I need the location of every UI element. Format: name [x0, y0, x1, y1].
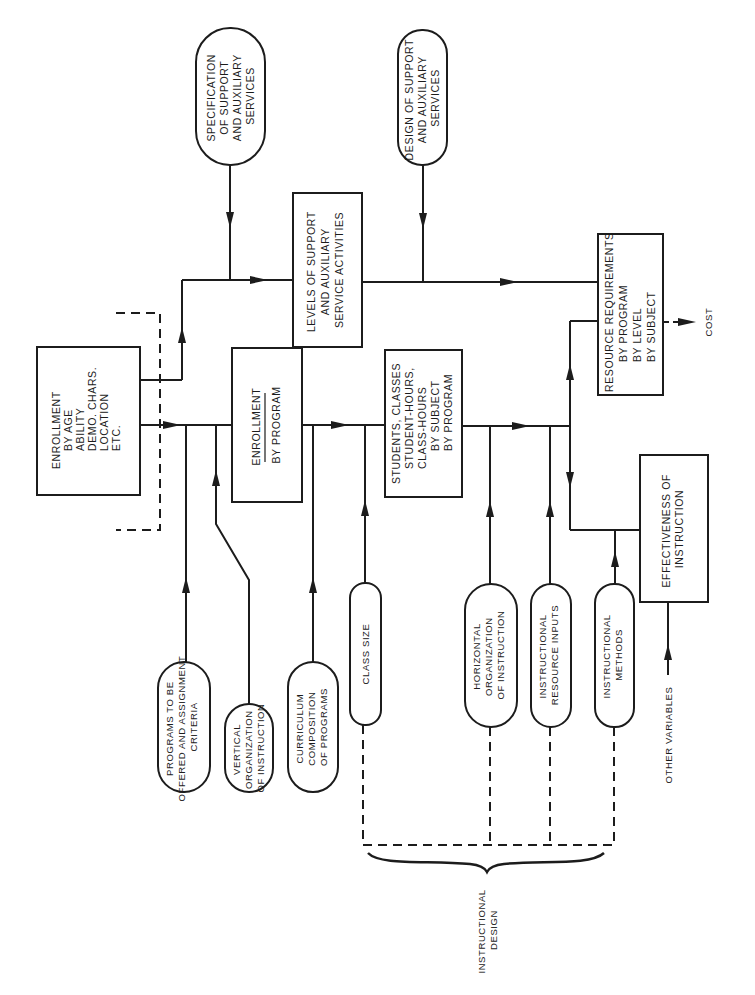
class-size-oval: CLASS SIZE — [350, 583, 381, 725]
instructional-methods-oval: INSTRUCTIONAL METHODS — [595, 584, 634, 727]
instructional-resource-oval: INSTRUCTIONAL RESOURCE INPUTS — [531, 584, 571, 727]
students-classes-box: STUDENTS, CLASSES STUDENT-HOURS, CLASS-H… — [385, 350, 462, 497]
svg-text:CLASS SIZE: CLASS SIZE — [360, 624, 371, 685]
spec-support-oval: SPECIFICATION OF SUPPORT AND AUXILIARY S… — [196, 28, 265, 165]
instructional-design-brace — [368, 853, 604, 872]
svg-text:INSTRUCTIONAL RESOURCE I: INSTRUCTIONAL RESOURCE INPUTS — [537, 605, 560, 705]
other-variables-label: OTHER VARIABLES — [663, 687, 674, 784]
flow-diagram: SPECIFICATION OF SUPPORT AND AUXILIARY S… — [0, 0, 755, 995]
programs-offered-oval: PROGRAMS TO BE OFFERED AND ASSIGNMENT CR… — [158, 653, 210, 802]
svg-text:CURRICULUM COMPOSITION: CURRICULUM COMPOSITION OF PROGRAMS — [294, 688, 329, 766]
svg-text:HORIZONTAL ORGANIZATION: HORIZONTAL ORGANIZATION OF INSTRUCTION — [471, 610, 506, 699]
enrollment-by-age-box: ENROLLMENT BY AGE ABILITY DEMO. CHARS. L… — [37, 347, 140, 495]
enrollment-by-program-box: ENROLLMENT BY PROGRAM — [232, 348, 302, 502]
svg-text:LEVELS OF SUPPORT AND AU: LEVELS OF SUPPORT AND AUXILIARY SERVICE … — [305, 208, 345, 332]
instructional-design-label: INSTRUCTIONAL DESIGN — [476, 886, 499, 973]
cost-label: COST — [703, 308, 714, 337]
effectiveness-box: EFFECTIVENESS OF INSTRUCTION — [640, 455, 708, 602]
horizontal-organization-oval: HORIZONTAL ORGANIZATION OF INSTRUCTION — [465, 584, 517, 727]
vertical-organization-oval: VERTICAL ORGANIZATION OF INSTRUCTION — [225, 703, 273, 792]
design-support-oval: DESIGN OF SUPPORT AND AUXILIARY SERVICES — [398, 30, 447, 165]
resource-requirements-box: RESOURCE REQUIREMENTS BY PROGRAM BY LEVE… — [598, 229, 663, 395]
levels-support-box: LEVELS OF SUPPORT AND AUXILIARY SERVICE … — [293, 193, 362, 347]
curriculum-oval: CURRICULUM COMPOSITION OF PROGRAMS — [288, 662, 338, 792]
